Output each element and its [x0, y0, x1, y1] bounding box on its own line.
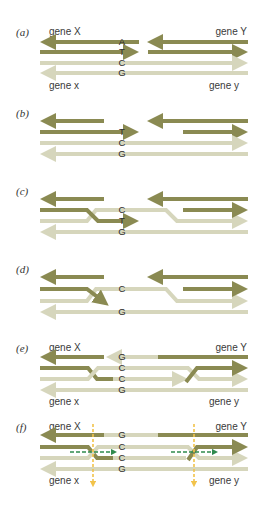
panel-label: (b) — [16, 107, 29, 120]
panel-f: (f) gene X gene Y G C C G gene x gene y — [16, 421, 248, 486]
base-letter: C — [119, 373, 126, 384]
base-letter: G — [118, 226, 125, 237]
panel-label: (e) — [16, 342, 29, 355]
base-letter: G — [118, 384, 125, 395]
base-letter: G — [118, 351, 125, 362]
gene-label-top-left: gene X — [49, 26, 81, 37]
gene-label-bottom-right: gene y — [209, 475, 239, 486]
base-letter: G — [118, 306, 125, 317]
panel-c: (c) C T G — [16, 185, 248, 237]
gene-label-bottom-right: gene y — [209, 80, 239, 91]
gene-label-bottom-left: gene x — [49, 80, 79, 91]
panel-a: (a) gene X gene Y A T C G gene x gene y — [16, 26, 248, 91]
panel-label: (a) — [16, 26, 29, 39]
base-letter: G — [118, 429, 125, 440]
base-letter: T — [119, 215, 125, 226]
gene-label-top-right: gene Y — [215, 342, 247, 353]
base-letter: C — [119, 283, 126, 294]
base-letter: G — [118, 67, 125, 78]
gene-label-bottom-left: gene x — [49, 396, 79, 407]
panel-d: (d) C G — [16, 263, 248, 317]
base-letter: C — [119, 204, 126, 215]
gene-label-top-right: gene Y — [215, 421, 247, 432]
gene-label-bottom-right: gene y — [209, 396, 239, 407]
panel-label: (d) — [16, 263, 29, 276]
base-letter: G — [118, 463, 125, 474]
base-letter: T — [119, 126, 125, 137]
gene-label-top-right: gene Y — [215, 26, 247, 37]
gene-label-top-left: gene X — [49, 421, 81, 432]
base-letter: C — [119, 362, 126, 373]
gene-conversion-diagram: (a) gene X gene Y A T C G gene x gene y … — [0, 0, 258, 508]
base-letter: C — [119, 137, 126, 148]
panel-e: (e) gene X gene Y G C C G gene x gene y — [16, 342, 248, 407]
base-letter: C — [119, 441, 126, 452]
base-letter: C — [119, 452, 126, 463]
base-letter: T — [119, 46, 125, 57]
base-letter: G — [118, 148, 125, 159]
panel-label: (f) — [16, 421, 27, 434]
panel-label: (c) — [16, 185, 29, 198]
panel-b: (b) T C G — [16, 107, 248, 159]
gene-label-bottom-left: gene x — [49, 475, 79, 486]
gene-label-top-left: gene X — [49, 342, 81, 353]
